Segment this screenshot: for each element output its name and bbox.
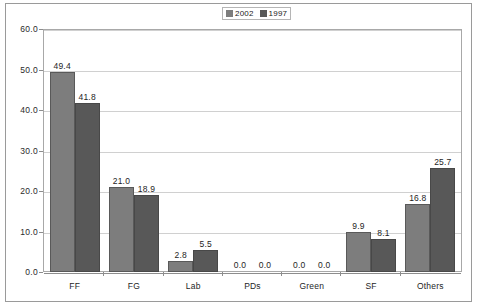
bar-group: 0.00.0 <box>223 29 282 272</box>
bar-2002-Lab[interactable]: 2.8 <box>168 261 193 272</box>
bar-1997-Lab[interactable]: 5.5 <box>193 250 218 272</box>
bar-1997-Others[interactable]: 25.7 <box>430 168 455 272</box>
bar-slot: 49.4 <box>50 29 75 272</box>
bar-slot: 0.0 <box>227 29 252 272</box>
bar-group: 49.441.8 <box>45 29 104 272</box>
bar-value-label: 9.9 <box>352 221 364 231</box>
x-axis-label-Green: Green <box>282 272 341 298</box>
bar-1997-SF[interactable]: 8.1 <box>371 239 396 272</box>
y-axis-tick: 20.0 <box>0 185 43 197</box>
bar-value-label: 49.4 <box>53 61 70 71</box>
bar-slot: 0.0 <box>252 29 277 272</box>
bar-slot: 25.7 <box>430 29 455 272</box>
bar-2002-FF[interactable]: 49.4 <box>50 72 75 272</box>
x-axis-label-FF: FF <box>45 272 104 298</box>
bar-value-label: 18.9 <box>138 184 155 194</box>
legend-swatch-2002 <box>226 10 233 17</box>
bar-2002-FG[interactable]: 21.0 <box>109 187 134 272</box>
legend-swatch-1997 <box>260 10 267 17</box>
bar-value-label: 5.5 <box>199 239 211 249</box>
bar-chart-figure: 2002 1997 60.050.040.030.020.010.00.0 49… <box>0 0 477 306</box>
legend-label-1997: 1997 <box>269 10 288 18</box>
legend-label-2002: 2002 <box>235 10 254 18</box>
bar-slot: 5.5 <box>193 29 218 272</box>
y-axis: 60.050.040.030.020.010.00.0 <box>0 29 43 272</box>
bar-value-label: 0.0 <box>259 260 271 270</box>
bar-value-label: 2.8 <box>174 250 186 260</box>
bars-layer: 49.441.821.018.92.85.50.00.00.00.09.98.1… <box>43 29 462 272</box>
y-axis-tick: 30.0 <box>0 145 43 157</box>
x-axis: FFFGLabPDsGreenSFOthers <box>43 272 462 298</box>
bar-group: 2.85.5 <box>164 29 223 272</box>
chart-legend: 2002 1997 <box>222 7 291 20</box>
bar-value-label: 0.0 <box>318 260 330 270</box>
bar-slot: 41.8 <box>75 29 100 272</box>
y-axis-tick: 60.0 <box>0 23 43 35</box>
bar-value-label: 0.0 <box>293 260 305 270</box>
bar-slot: 0.0 <box>312 29 337 272</box>
bar-slot: 0.0 <box>287 29 312 272</box>
bar-value-label: 8.1 <box>377 228 389 238</box>
bar-slot: 9.9 <box>346 29 371 272</box>
bar-value-label: 25.7 <box>434 157 451 167</box>
bar-1997-FG[interactable]: 18.9 <box>134 195 159 272</box>
bar-slot: 18.9 <box>134 29 159 272</box>
x-axis-label-PDs: PDs <box>223 272 282 298</box>
bar-value-label: 21.0 <box>113 176 130 186</box>
bar-value-label: 16.8 <box>409 193 426 203</box>
bar-2002-SF[interactable]: 9.9 <box>346 232 371 272</box>
legend-entry-2002: 2002 <box>226 10 254 18</box>
y-axis-tick: 50.0 <box>0 64 43 76</box>
bar-2002-Others[interactable]: 16.8 <box>405 204 430 272</box>
bar-group: 21.018.9 <box>104 29 163 272</box>
x-axis-label-SF: SF <box>341 272 400 298</box>
bar-group: 0.00.0 <box>282 29 341 272</box>
x-axis-label-Others: Others <box>401 272 460 298</box>
bar-slot: 21.0 <box>109 29 134 272</box>
y-axis-tick: 0.0 <box>0 266 43 278</box>
y-axis-tick: 10.0 <box>0 226 43 238</box>
x-axis-label-FG: FG <box>104 272 163 298</box>
y-axis-tick: 40.0 <box>0 104 43 116</box>
bar-group: 9.98.1 <box>341 29 400 272</box>
bar-1997-FF[interactable]: 41.8 <box>75 103 100 272</box>
bar-value-label: 41.8 <box>78 92 95 102</box>
bar-slot: 2.8 <box>168 29 193 272</box>
bar-group: 16.825.7 <box>401 29 460 272</box>
x-axis-label-Lab: Lab <box>164 272 223 298</box>
legend-entry-1997: 1997 <box>260 10 288 18</box>
bar-slot: 16.8 <box>405 29 430 272</box>
bar-value-label: 0.0 <box>234 260 246 270</box>
bar-slot: 8.1 <box>371 29 396 272</box>
